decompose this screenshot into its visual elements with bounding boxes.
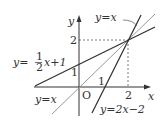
x-axis-label: x [148, 90, 155, 103]
y-tick-2: 2 [70, 34, 77, 47]
label-2x-minus-2: y=2x−2 [99, 103, 145, 116]
y-axis-label: y [67, 15, 75, 28]
x-axis-arrow-icon [144, 85, 151, 90]
label-half-prefix: y= [12, 56, 28, 69]
x-tick-2: 2 [125, 89, 132, 102]
origin-label: O [82, 89, 91, 102]
label-bottom-y-equals-x: y=x [34, 93, 57, 106]
y-axis-arrow-icon [77, 15, 82, 22]
line-y-equals-x [52, 14, 155, 114]
label-half-frac-den: 2 [36, 61, 43, 74]
label-top-y-equals-x: y=x [94, 11, 117, 24]
label-leader-line [123, 20, 137, 26]
graph-figure: y x O 2 1 1 2 y=x y=x y=2x−2 y= 1 2 x+1 [0, 0, 165, 120]
y-tick-1: 1 [71, 66, 78, 79]
graph-canvas: y x O 2 1 1 2 y=x y=x y=2x−2 y= 1 2 x+1 [0, 0, 165, 120]
label-half-suffix: x+1 [44, 56, 66, 69]
line-2x-minus-2 [92, 15, 141, 113]
x-tick-1: 1 [98, 75, 105, 88]
